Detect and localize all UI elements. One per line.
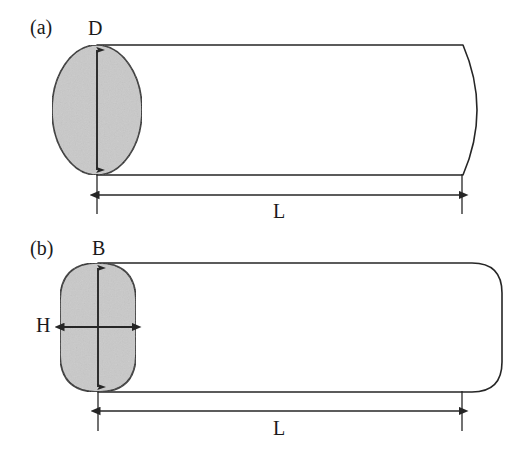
prism-body-b [98,263,502,392]
figure-root: (a) D L (b) B H L [0,0,528,463]
dimension-label-H: H [36,315,50,335]
dimension-label-B: B [92,238,105,258]
dimension-label-L-b: L [273,418,285,438]
technical-diagram-canvas [0,0,528,463]
panel-a-drawing [52,45,477,214]
dimension-label-D: D [88,18,102,38]
panel-b-drawing [60,263,502,431]
panel-label-a: (a) [30,17,52,37]
dimension-label-L-a: L [273,201,285,221]
panel-label-b: (b) [30,238,53,258]
cylinder-body-a [97,45,477,175]
